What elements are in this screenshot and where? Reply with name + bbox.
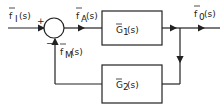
block-diagram: f I (s) + − f A (s) G 1 (s) f 0 (s) bbox=[0, 0, 224, 111]
output-signal-label: f 0 (s) bbox=[194, 6, 216, 22]
error-signal-label: f A (s) bbox=[76, 8, 98, 24]
svg-text:(s): (s) bbox=[86, 11, 98, 21]
svg-text:f: f bbox=[60, 47, 64, 57]
summing-junction: + − bbox=[37, 16, 64, 48]
svg-text:f: f bbox=[76, 11, 80, 21]
svg-text:f: f bbox=[9, 11, 13, 21]
svg-text:f: f bbox=[194, 9, 198, 19]
svg-text:G: G bbox=[116, 25, 123, 35]
plus-sign: + bbox=[37, 16, 45, 26]
feedback-return-line bbox=[55, 39, 102, 84]
input-signal-label: f I (s) bbox=[9, 8, 31, 24]
svg-text:G: G bbox=[116, 80, 123, 90]
feedback-block-g2: G 2 (s) bbox=[102, 65, 162, 103]
svg-text:(s): (s) bbox=[19, 11, 31, 21]
svg-text:(s): (s) bbox=[71, 47, 83, 57]
minus-sign: − bbox=[46, 38, 54, 48]
svg-text:(s): (s) bbox=[204, 9, 216, 19]
feedback-takeoff-line bbox=[162, 28, 180, 84]
feedback-signal-label: f M (s) bbox=[60, 44, 83, 60]
svg-text:I: I bbox=[15, 14, 18, 24]
svg-text:(s): (s) bbox=[127, 25, 139, 35]
svg-text:(s): (s) bbox=[127, 80, 139, 90]
forward-block-g1: G 1 (s) bbox=[102, 11, 162, 45]
